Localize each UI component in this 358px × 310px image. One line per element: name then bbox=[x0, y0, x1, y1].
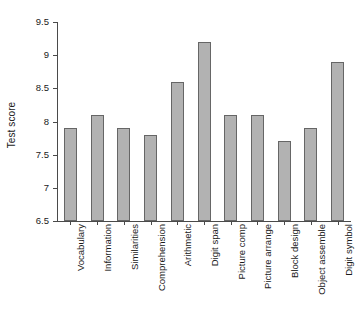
bar-series bbox=[57, 22, 351, 221]
bar bbox=[304, 128, 317, 221]
bar bbox=[224, 115, 237, 221]
x-tick-label: Block design bbox=[289, 224, 301, 310]
x-tick-label: Vocabulary bbox=[75, 224, 87, 310]
y-tick bbox=[53, 22, 57, 23]
y-tick-label: 6.5 bbox=[23, 216, 49, 226]
x-tick-label: Similarities bbox=[129, 224, 141, 310]
x-tick-label: Digit span bbox=[209, 224, 221, 310]
x-axis-labels: VocabularyInformationSimilaritiesCompreh… bbox=[57, 224, 351, 310]
y-tick bbox=[53, 122, 57, 123]
plot-area: 6.577.588.599.5 bbox=[57, 22, 351, 221]
y-tick bbox=[53, 55, 57, 56]
y-tick bbox=[53, 155, 57, 156]
bar bbox=[198, 42, 211, 221]
bar-chart: Test score 6.577.588.599.5 VocabularyInf… bbox=[0, 0, 358, 310]
x-tick-label: Information bbox=[102, 224, 114, 310]
bar bbox=[91, 115, 104, 221]
y-tick-label: 7 bbox=[23, 183, 49, 193]
x-tick-label: Picture arrange bbox=[262, 224, 274, 310]
bar bbox=[64, 128, 77, 221]
x-tick-label: Picture comp bbox=[236, 224, 248, 310]
y-tick bbox=[53, 221, 57, 222]
x-tick-label: Object assemble bbox=[316, 224, 328, 310]
bar bbox=[144, 135, 157, 221]
bar bbox=[331, 62, 344, 221]
y-tick-label: 9.5 bbox=[23, 17, 49, 27]
x-tick-label: Arithmetic bbox=[182, 224, 194, 310]
bar bbox=[117, 128, 130, 221]
y-tick bbox=[53, 188, 57, 189]
y-tick-label: 8.5 bbox=[23, 83, 49, 93]
bar bbox=[251, 115, 264, 221]
y-axis-title-text: Test score bbox=[6, 80, 17, 170]
y-tick-label: 9 bbox=[23, 50, 49, 60]
x-tick-label: Comprehension bbox=[156, 224, 168, 310]
y-tick-label: 7.5 bbox=[23, 150, 49, 160]
bar bbox=[278, 141, 291, 221]
y-tick-label: 8 bbox=[23, 117, 49, 127]
bar bbox=[171, 82, 184, 221]
y-tick bbox=[53, 88, 57, 89]
y-axis-title: Test score bbox=[6, 0, 20, 80]
x-tick-label: Digit symbol bbox=[343, 224, 355, 310]
